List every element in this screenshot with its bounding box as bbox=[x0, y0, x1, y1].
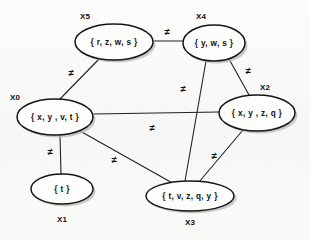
edge-x5-x0 bbox=[60, 58, 100, 99]
node-x4[interactable]: { y, w, s } X4 bbox=[183, 12, 248, 63]
node-x5-domain: { r, z, w, s } bbox=[91, 38, 138, 47]
node-x5[interactable]: { r, z, w, s } X5 bbox=[75, 12, 156, 62]
node-x2[interactable]: { x, y , z, q } X2 bbox=[219, 83, 298, 133]
edge-x0-x1 bbox=[60, 135, 61, 174]
node-x2-tag: X2 bbox=[260, 83, 270, 92]
diagram-canvas: { r, z, w, s } X5 { y, w, s } X4 { x, y … bbox=[0, 0, 310, 240]
node-x1-tag: X1 bbox=[57, 215, 67, 224]
neq-label-x0-x3: ≠ bbox=[111, 154, 117, 165]
node-x4-domain: { y, w, s } bbox=[195, 39, 234, 48]
neq-label-x0-x1: ≠ bbox=[47, 146, 53, 157]
neq-label-x4-x2: ≠ bbox=[245, 65, 251, 76]
edge-x0-x2 bbox=[93, 112, 219, 114]
neq-label-x5-x4: ≠ bbox=[164, 26, 170, 37]
node-x5-tag: X5 bbox=[80, 12, 90, 21]
neq-label-x0-x2: ≠ bbox=[149, 122, 155, 133]
node-x1[interactable]: { t } X1 bbox=[31, 174, 96, 224]
edge-x4-x3 bbox=[185, 61, 206, 181]
node-x0-domain: { x, y , v, t } bbox=[31, 113, 79, 122]
edge-x2-x3 bbox=[199, 130, 243, 182]
node-x0[interactable]: { x, y , v, t } X0 bbox=[10, 93, 95, 137]
node-layer: { r, z, w, s } X5 { y, w, s } X4 { x, y … bbox=[10, 12, 297, 227]
node-x1-domain: { t } bbox=[54, 185, 70, 194]
node-x3[interactable]: { t, v, z, q, y } X3 bbox=[146, 181, 237, 227]
node-x2-domain: { x, y , z, q } bbox=[232, 109, 283, 118]
neq-label-x4-x3: ≠ bbox=[180, 83, 186, 94]
constraint-graph-diagram: { r, z, w, s } X5 { y, w, s } X4 { x, y … bbox=[0, 0, 310, 240]
edge-x0-x3 bbox=[80, 131, 176, 185]
node-x3-tag: X3 bbox=[185, 218, 195, 227]
neq-label-x2-x3: ≠ bbox=[211, 150, 217, 161]
neq-label-x5-x0: ≠ bbox=[68, 67, 74, 78]
node-x4-tag: X4 bbox=[196, 12, 206, 21]
node-x0-tag: X0 bbox=[10, 93, 20, 102]
node-x3-domain: { t, v, z, q, y } bbox=[162, 192, 218, 201]
